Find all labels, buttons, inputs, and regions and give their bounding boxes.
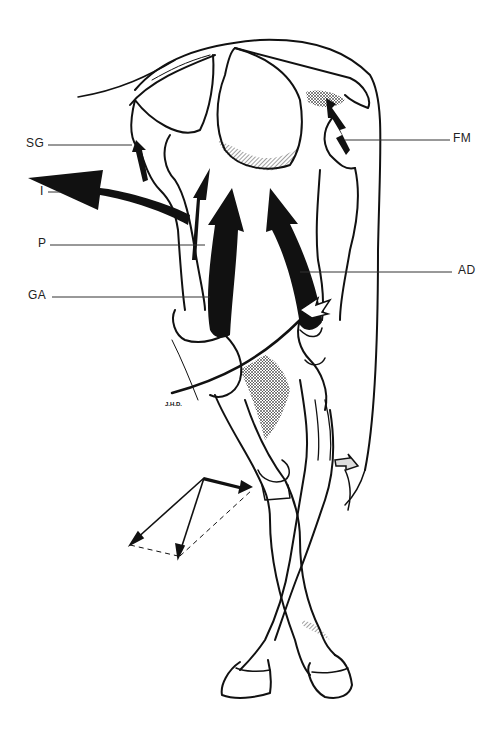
left-cannon-inner (245, 400, 335, 655)
arrow-small-outward (335, 454, 358, 470)
right-scapula (235, 48, 369, 108)
label-SG: SG (26, 136, 44, 150)
fm-shading (306, 90, 345, 107)
arrow-FM (326, 98, 350, 155)
body-top-line (130, 55, 215, 105)
label-FM: FM (453, 131, 471, 145)
chest-shading (240, 355, 290, 440)
label-I: I (40, 184, 44, 198)
right-humerus (340, 168, 358, 320)
left-hoof (222, 660, 271, 698)
left-cannon-outer (215, 395, 310, 675)
left-carpus (173, 310, 241, 397)
label-AD: AD (458, 263, 476, 277)
arrow-SG (132, 140, 148, 182)
arrow-P (192, 168, 210, 260)
label-GA: GA (28, 288, 46, 302)
force-vector-main (202, 477, 253, 494)
label-P: P (38, 236, 47, 250)
neck-outline (78, 60, 175, 97)
arrow-GA (208, 188, 244, 338)
right-hoof (308, 655, 352, 698)
anatomical-diagram (0, 0, 501, 735)
artist-signature: J.H.D. (165, 401, 182, 407)
